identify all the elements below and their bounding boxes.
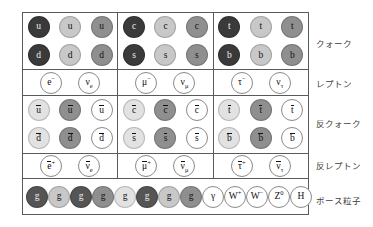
particle-row: e+νe [23,154,117,179]
particle-quark-t: t [281,16,303,38]
particle-row-lower: ddd [23,41,117,69]
particle-quark-d: d [28,44,50,66]
particle-quark-t: t [250,16,272,38]
particle-row: e−νe [23,70,117,95]
particle-row-lower: bbb [214,124,308,152]
particle-row: μ+νμ [118,154,212,179]
generation-1-lepton: e−νe [23,70,118,95]
particle-antiquark-anti-t: t [250,99,272,121]
particle-quark-u: u [59,16,81,38]
generation-3-antilepton: τ+ντ [214,154,308,179]
particle-quark-s: s [154,44,176,66]
generation-2-lepton: μ−νμ [118,70,213,95]
particle-antilepton-anti-μplus: μ+ [135,155,157,177]
particle-quark-c: c [186,16,208,38]
particle-row-lower: ddd [23,124,117,152]
boson-particle-group: ggggggggγW+W−Z0H [23,179,308,214]
particle-antiquark-anti-c: c [123,99,145,121]
particle-row-upper: ttt [214,96,308,124]
particle-antiquark-anti-d: d [91,127,113,149]
particle-lepton-τminus: τ− [231,72,253,94]
particle-boson-g: g [70,186,92,208]
particle-antiquark-anti-s: s [123,127,145,149]
particle-antiquark-anti-c: c [154,99,176,121]
particle-antiquark-anti-c: c [186,99,208,121]
particle-row: τ−ντ [214,70,308,95]
particle-antiquark-anti-d: d [28,127,50,149]
particle-boson-γ: γ [202,186,224,208]
particle-boson-g: g [48,186,70,208]
generation-3-lepton: τ−ντ [214,70,308,95]
particle-quark-b: b [250,44,272,66]
generation-2-antilepton: μ+νμ [118,154,213,179]
particle-boson-g: g [92,186,114,208]
row-label-antiquark: 反クォーク [316,117,361,129]
particle-row-upper: ttt [214,13,308,41]
particle-antilepton-anti-eplus: e+ [40,155,62,177]
generation-2-quark: cccsss [118,13,213,69]
particle-lepton-ν: νe [78,72,100,94]
row-label-column: クォーク レプトン 反クォーク 反レプトン ボース粒子 [316,12,373,215]
particle-row-lower: sss [118,41,212,69]
particle-boson-g: g [26,186,48,208]
particle-antilepton-anti-τplus: τ+ [231,155,253,177]
table-row-lepton: e−νeμ−νμτ−ντ [23,70,308,96]
particle-quark-d: d [59,44,81,66]
particle-boson-Wplus: W+ [224,186,246,208]
particle-row-lower: bbb [214,41,308,69]
particle-antiquark-anti-b: b [218,127,240,149]
particle-row-upper: uuu [23,13,117,41]
row-label-antilepton: 反レプトン [316,159,361,171]
particle-quark-u: u [28,16,50,38]
particle-quark-u: u [91,16,113,38]
particle-boson-Wminus: W− [246,186,268,208]
particle-row-lower: sss [118,124,212,152]
particle-quark-b: b [218,44,240,66]
particle-antiquark-anti-u: u [91,99,113,121]
particle-antiquark-anti-u: u [28,99,50,121]
generation-1-quark: uuuddd [23,13,118,69]
particle-quark-s: s [123,44,145,66]
particle-antiquark-anti-d: d [59,127,81,149]
particle-quark-t: t [218,16,240,38]
particle-lepton-eminus: e− [40,72,62,94]
generation-2-antiquark: cccsss [118,96,213,152]
row-label-quark: クォーク [316,37,352,49]
particle-lepton-ν: ντ [269,72,291,94]
table-row-boson: ggggggggγW+W−Z0H [23,179,308,214]
particle-boson-g: g [136,186,158,208]
table-row-antilepton: e+νeμ+νμτ+ντ [23,154,308,180]
particle-row: τ+ντ [214,154,308,179]
particle-antiquark-anti-b: b [281,127,303,149]
generation-1-antilepton: e+νe [23,154,118,179]
table-row-quark: uuudddcccssstttbbb [23,13,308,70]
particle-boson-H: H [290,186,312,208]
particle-antiquark-anti-s: s [154,127,176,149]
generation-1-antiquark: uuuddd [23,96,118,152]
particle-row: μ−νμ [118,70,212,95]
particle-boson-g: g [158,186,180,208]
particle-boson-g: g [114,186,136,208]
particle-lepton-μminus: μ− [135,72,157,94]
particle-row-upper: ccc [118,96,212,124]
table-row-antiquark: uuudddcccssstttbbb [23,96,308,153]
particle-row-upper: ccc [118,13,212,41]
standard-model-table: uuudddcccssstttbbb e−νeμ−νμτ−ντ uuudddcc… [22,12,309,215]
generation-3-antiquark: tttbbb [214,96,308,152]
particle-quark-d: d [91,44,113,66]
particle-table-figure: uuudddcccssstttbbb e−νeμ−νμτ−ντ uuudddcc… [0,0,373,227]
particle-lepton-ν: νμ [173,72,195,94]
particle-antiquark-anti-t: t [218,99,240,121]
particle-row-upper: uuu [23,96,117,124]
generation-3-quark: tttbbb [214,13,308,69]
particle-boson-g: g [180,186,202,208]
particle-antiquark-anti-t: t [281,99,303,121]
particle-antilepton-anti-ν: νe [78,155,100,177]
particle-quark-b: b [281,44,303,66]
particle-antiquark-anti-b: b [250,127,272,149]
row-label-boson: ボース粒子 [316,194,361,206]
particle-antiquark-anti-s: s [186,127,208,149]
particle-antilepton-anti-ν: νμ [173,155,195,177]
particle-quark-c: c [154,16,176,38]
particle-quark-s: s [186,44,208,66]
